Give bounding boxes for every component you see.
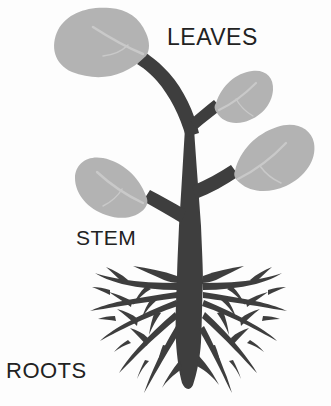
leaf-large-upper-left-blade — [54, 8, 149, 78]
root-hair-right-1 — [268, 287, 286, 295]
label-stem: STEM — [76, 226, 136, 250]
root-taproot-fork-left — [162, 360, 182, 388]
root-hair-left-2 — [98, 316, 116, 321]
leaf-medium-left-blade — [75, 157, 147, 217]
root-left-4b — [130, 328, 148, 346]
root-left-6 — [133, 266, 178, 283]
leaf-large-upper-left — [54, 8, 149, 78]
label-leaves: LEAVES — [167, 24, 258, 51]
leaf-medium-left — [75, 157, 147, 217]
stem-branch-left — [143, 190, 186, 223]
root-right-4b — [231, 328, 249, 346]
leaf-small-upper-right-blade — [215, 71, 273, 123]
roots-group — [90, 266, 287, 393]
root-hair-right-2 — [262, 316, 280, 321]
label-roots: ROOTS — [6, 358, 87, 384]
stem-branch-upper-left — [137, 53, 199, 137]
root-hair-right-3 — [247, 340, 264, 352]
leaf-small-upper-right — [215, 71, 273, 123]
leaf-medium-right-blade — [234, 125, 314, 191]
root-hair-left-4 — [137, 360, 149, 379]
root-right-6 — [202, 266, 244, 283]
stem-branch-right — [192, 165, 239, 199]
stem-trunk — [177, 128, 203, 284]
root-hair-left-3 — [114, 340, 131, 352]
root-hair-left-1 — [92, 287, 110, 295]
root-taproot — [176, 280, 203, 389]
plant-illustration — [0, 0, 331, 406]
root-hair-right-4 — [229, 360, 241, 379]
plant-diagram-canvas: LEAVES STEM ROOTS — [0, 0, 331, 406]
leaf-medium-right — [234, 125, 314, 191]
stem-group — [137, 53, 239, 284]
